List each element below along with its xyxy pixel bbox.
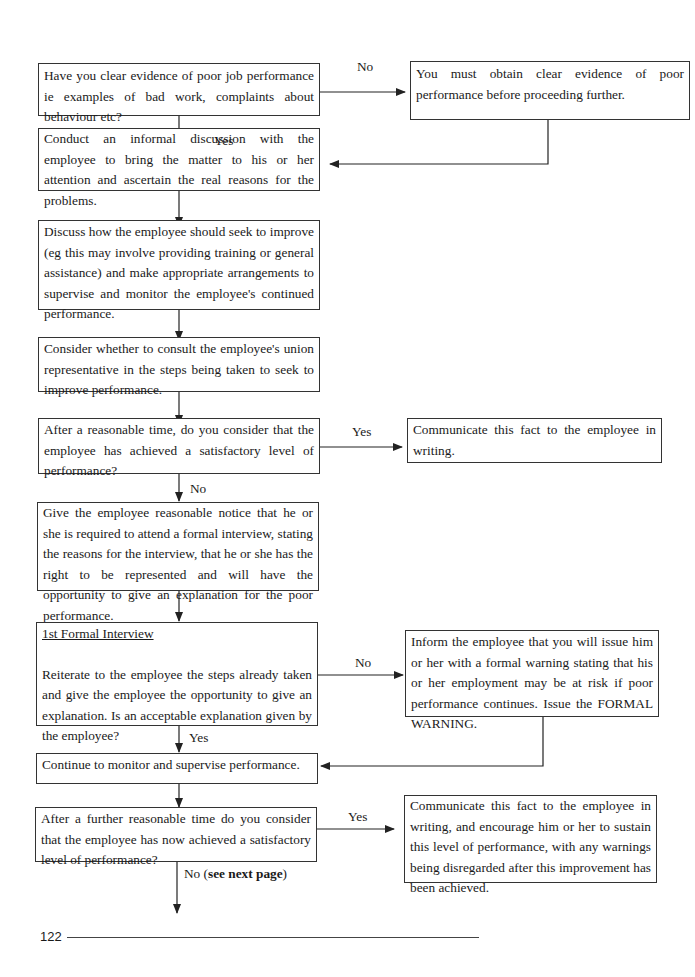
branch-label-no: No [357, 59, 373, 75]
first-formal-interview-text: Reiterate to the employee the steps alre… [42, 665, 312, 747]
communicate-sustain-text: Communicate this fact to the employee in… [410, 796, 651, 899]
informal-discussion-text: Conduct an informal discussion with the … [44, 129, 314, 211]
formal-warning-box: Inform the employee that you will issue … [405, 630, 659, 717]
consult-union-text: Consider whether to consult the employee… [44, 339, 314, 401]
continue-monitoring-text: Continue to monitor and supervise perfor… [42, 755, 312, 776]
branch-label-no: No [355, 655, 371, 671]
evidence-question-box: Have you clear evidence of poor job perf… [38, 63, 320, 116]
formal-notice-text: Give the employee reasonable notice that… [43, 503, 313, 626]
informal-discussion-box: Conduct an informal discussion with the … [38, 128, 320, 191]
branch-label-yes: Yes [352, 424, 371, 440]
branch-label-yes: Yes [189, 730, 208, 746]
satisfactory-question-1-box: After a reasonable time, do you consider… [38, 418, 320, 474]
communicate-writing-text: Communicate this fact to the employee in… [413, 420, 656, 461]
evidence-question-text: Have you clear evidence of poor job perf… [44, 66, 314, 128]
continue-monitoring-box: Continue to monitor and supervise perfor… [36, 753, 318, 784]
branch-label-yes: Yes [214, 133, 233, 149]
branch-label-no-see-next-page: No (see next page) [184, 866, 287, 882]
satisfactory-question-2-text: After a further reasonable time do you c… [41, 809, 311, 871]
communicate-writing-box: Communicate this fact to the employee in… [407, 418, 662, 463]
first-formal-interview-box: 1st Formal Interview Reiterate to the em… [36, 622, 318, 726]
branch-label-yes: Yes [348, 809, 367, 825]
no-label-suffix: ) [283, 866, 287, 881]
footer-rule [67, 937, 479, 938]
obtain-evidence-text: You must obtain clear evidence of poor p… [416, 64, 684, 105]
first-formal-interview-heading: 1st Formal Interview [42, 624, 312, 645]
consult-union-box: Consider whether to consult the employee… [38, 337, 320, 392]
satisfactory-question-1-text: After a reasonable time, do you consider… [44, 420, 314, 482]
obtain-evidence-box: You must obtain clear evidence of poor p… [410, 61, 690, 120]
formal-notice-box: Give the employee reasonable notice that… [37, 502, 319, 591]
see-next-page-text: see next page [208, 866, 283, 881]
communicate-sustain-box: Communicate this fact to the employee in… [404, 795, 657, 883]
branch-label-no: No [190, 481, 206, 497]
page-number: 122 [40, 929, 62, 944]
no-label-prefix: No ( [184, 866, 208, 881]
formal-warning-text: Inform the employee that you will issue … [411, 632, 653, 735]
discuss-improvement-box: Discuss how the employee should seek to … [38, 220, 320, 310]
satisfactory-question-2-box: After a further reasonable time do you c… [35, 807, 317, 862]
discuss-improvement-text: Discuss how the employee should seek to … [44, 222, 314, 325]
